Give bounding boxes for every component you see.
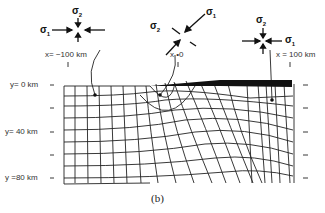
sigma2-label-center: σ2 — [150, 20, 160, 33]
x-label-100: x = 100 km — [276, 50, 315, 59]
x-label-minus100: x= −100 km — [45, 50, 87, 59]
sigma1-label-right: σ1 — [285, 34, 295, 47]
x-label-0: x •0 — [170, 50, 183, 59]
y-label-40: y= 40 km — [5, 127, 38, 136]
figure-caption: (b) — [151, 192, 164, 204]
stress-symbol-left — [52, 18, 105, 42]
sigma2-label-right: σ2 — [256, 14, 266, 27]
y-label-0: y= 0 km — [10, 80, 38, 89]
stress-symbol-center — [166, 14, 205, 55]
sigma1-label-left: σ1 — [40, 24, 50, 37]
sigma1-label-center: σ1 — [206, 6, 216, 19]
sigma2-label-left: σ2 — [72, 5, 82, 18]
y-label-80: y =80 km — [5, 173, 38, 182]
surface-load-bar — [150, 80, 292, 87]
